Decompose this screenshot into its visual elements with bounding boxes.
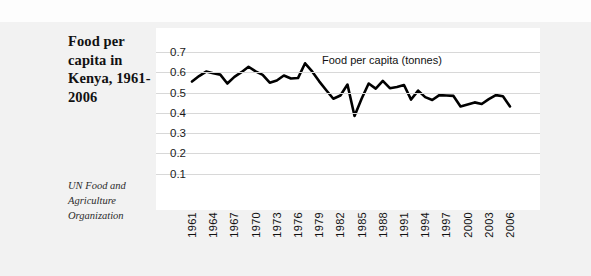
x-axis-tick-label: 1961	[186, 212, 198, 238]
x-axis-tick-label: 1982	[334, 212, 346, 238]
gridline	[156, 72, 540, 73]
gridline	[156, 133, 540, 134]
y-axis-tick-label: 0.6	[170, 66, 192, 78]
plot-inner: Food per capita (tonnes) 0.70.60.50.40.3…	[156, 28, 540, 210]
gridline	[156, 93, 540, 94]
x-axis-tick-label: 1967	[228, 212, 240, 238]
source-attribution: UN Food and Agriculture Organization	[68, 178, 152, 224]
y-axis-tick-label: 0.4	[170, 107, 192, 119]
y-axis-tick-label: 0.7	[170, 46, 192, 58]
y-axis-tick-label: 0.1	[170, 168, 192, 180]
x-axis-tick-label: 2003	[483, 212, 495, 238]
gridline	[156, 153, 540, 154]
x-axis-tick-label: 1973	[271, 212, 283, 238]
x-axis-tick-label: 2006	[504, 212, 516, 238]
x-axis-tick-label: 2000	[462, 212, 474, 238]
y-axis-tick-label: 0.3	[170, 127, 192, 139]
gridline	[156, 52, 540, 53]
x-axis-tick-label: 1970	[250, 212, 262, 238]
legend-entry-food-per-capita: Food per capita (tonnes)	[322, 54, 442, 66]
figure-page: Food per capita in Kenya, 1961-2006 UN F…	[0, 0, 591, 276]
x-axis-tick-label: 1988	[377, 212, 389, 238]
title-column: Food per capita in Kenya, 1961-2006	[68, 32, 152, 106]
x-axis-tick-label: 1997	[440, 212, 452, 238]
plot-panel: Food per capita (tonnes) 0.70.60.50.40.3…	[156, 28, 540, 210]
gridline	[156, 174, 540, 175]
x-axis-tick-label: 1964	[207, 212, 219, 238]
page-title: Food per capita in Kenya, 1961-2006	[68, 32, 152, 106]
x-axis-tick-label: 1976	[292, 212, 304, 238]
x-axis-tick-label: 1994	[419, 212, 431, 238]
x-axis-tick-label: 1991	[398, 212, 410, 238]
series-polyline	[192, 63, 510, 116]
x-axis-ticks: 1961196419671970197319761979198219851988…	[156, 212, 540, 272]
y-axis-tick-label: 0.2	[170, 147, 192, 159]
x-axis-tick-label: 1979	[313, 212, 325, 238]
y-axis-tick-label: 0.5	[170, 87, 192, 99]
x-axis-tick-label: 1985	[356, 212, 368, 238]
gridline	[156, 113, 540, 114]
